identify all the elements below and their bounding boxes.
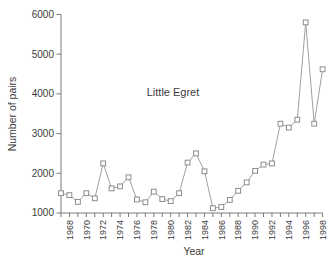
data-point-marker	[244, 180, 249, 185]
data-point-marker	[67, 193, 72, 198]
data-point-marker	[236, 188, 241, 193]
x-axis: 1968197019721974197619781980198219841986…	[61, 213, 328, 240]
data-point-marker	[219, 205, 224, 210]
y-tick-label: 6000	[32, 9, 55, 20]
x-tick-label: 1986	[217, 220, 227, 240]
x-tick-label: 1990	[250, 220, 260, 240]
data-point-marker	[101, 161, 106, 166]
y-axis: 100020003000400050006000	[32, 9, 61, 219]
axis-spines	[61, 15, 323, 214]
data-point-marker	[109, 186, 114, 191]
y-tick-label: 2000	[32, 168, 55, 179]
x-tick-label: 1988	[233, 220, 243, 240]
data-point-marker	[118, 184, 123, 189]
data-point-marker	[320, 67, 325, 72]
data-point-marker	[168, 199, 173, 204]
data-point-marker	[270, 161, 275, 166]
x-tick-label: 1992	[267, 220, 277, 240]
series-line	[61, 22, 323, 208]
x-tick-label: 1994	[284, 220, 294, 240]
data-point-marker	[160, 197, 165, 202]
data-point-marker	[286, 125, 291, 130]
data-point-marker	[59, 191, 64, 196]
x-tick-label: 1968	[65, 220, 75, 240]
data-point-marker	[312, 121, 317, 126]
x-tick-label: 1998	[318, 220, 328, 240]
data-point-marker	[194, 151, 199, 156]
x-tick-label: 1978	[149, 220, 159, 240]
data-point-marker	[84, 191, 89, 196]
data-point-marker	[185, 160, 190, 165]
data-point-marker	[76, 200, 81, 205]
y-tick-label: 1000	[32, 207, 55, 218]
chart-canvas: 1000200030004000500060001968197019721974…	[0, 0, 332, 270]
data-point-marker	[261, 162, 266, 167]
x-tick-label: 1976	[132, 220, 142, 240]
data-point-marker	[303, 20, 308, 25]
data-point-marker	[126, 175, 131, 180]
data-point-marker	[135, 197, 140, 202]
x-tick-label: 1982	[183, 220, 193, 240]
data-point-marker	[151, 189, 156, 194]
data-point-marker	[143, 200, 148, 205]
y-tick-label: 3000	[32, 128, 55, 139]
data-point-marker	[295, 117, 300, 122]
x-tick-label: 1974	[115, 220, 125, 240]
data-point-marker	[202, 169, 207, 174]
x-tick-label: 1980	[166, 220, 176, 240]
data-point-marker	[211, 206, 216, 211]
x-tick-label: 1970	[82, 220, 92, 240]
x-tick-label: 1972	[98, 220, 108, 240]
data-point-marker	[253, 169, 258, 174]
data-point-marker	[177, 191, 182, 196]
data-point-marker	[278, 121, 283, 126]
x-tick-label: 1984	[200, 220, 210, 240]
x-tick-label: 1996	[301, 220, 311, 240]
data-point-marker	[92, 196, 97, 201]
data-point-marker	[227, 198, 232, 203]
line-chart-figure: 1000200030004000500060001968197019721974…	[0, 0, 332, 270]
y-tick-label: 5000	[32, 49, 55, 60]
y-tick-label: 4000	[32, 88, 55, 99]
data-series	[59, 20, 325, 211]
